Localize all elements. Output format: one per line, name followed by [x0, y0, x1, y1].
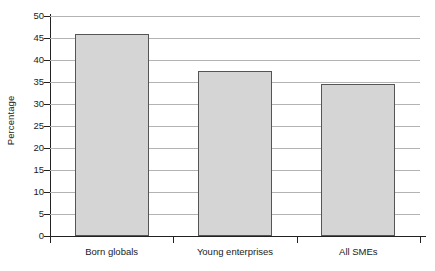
y-axis-tick-mark — [44, 126, 50, 127]
y-axis-tick-label: 50 — [20, 11, 44, 21]
bar — [321, 84, 395, 236]
x-axis-end-tick-mark — [50, 237, 51, 243]
y-axis-tick-label: 0 — [20, 231, 44, 241]
y-axis-tick-mark — [44, 192, 50, 193]
x-axis-category-labels: Born globalsYoung enterprisesAll SMEs — [50, 246, 420, 266]
y-axis-tick-label: 35 — [20, 77, 44, 87]
y-axis-title: Percentage — [0, 0, 22, 240]
bar-chart: Percentage 05101520253035404550 Born glo… — [0, 0, 435, 271]
y-axis-tick-mark — [44, 38, 50, 39]
y-axis-tick-label: 15 — [20, 165, 44, 175]
y-axis-tick-mark — [44, 214, 50, 215]
x-axis-tick-mark — [297, 237, 298, 243]
y-axis-tick-label: 45 — [20, 33, 44, 43]
x-axis-category-label: All SMEs — [297, 246, 420, 258]
y-axis-tick-mark — [44, 60, 50, 61]
y-axis-tick-mark — [44, 148, 50, 149]
y-axis-tick-label: 25 — [20, 121, 44, 131]
x-axis-category-label: Young enterprises — [173, 246, 296, 258]
y-axis-tick-labels: 05101520253035404550 — [20, 0, 44, 271]
bar — [75, 34, 149, 236]
x-axis-category-label: Born globals — [50, 246, 173, 258]
y-axis-tick-mark — [44, 16, 50, 17]
gridline — [50, 16, 420, 17]
y-axis-tick-mark — [44, 170, 50, 171]
y-axis-tick-mark — [44, 82, 50, 83]
y-axis-tick-label: 5 — [20, 209, 44, 219]
y-axis-title-label: Percentage — [6, 95, 17, 145]
x-axis-line — [44, 236, 426, 237]
x-axis-tick-mark — [173, 237, 174, 243]
x-axis-end-tick-mark — [420, 237, 421, 243]
plot-area — [50, 16, 420, 236]
bar — [198, 71, 272, 236]
y-axis-tick-mark — [44, 104, 50, 105]
y-axis-tick-label: 20 — [20, 143, 44, 153]
y-axis-tick-label: 40 — [20, 55, 44, 65]
y-axis-tick-label: 10 — [20, 187, 44, 197]
y-axis-tick-label: 30 — [20, 99, 44, 109]
